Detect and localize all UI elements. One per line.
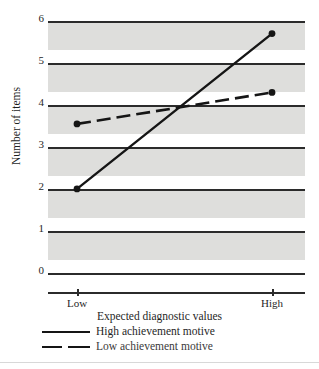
x-axis-line xyxy=(48,292,305,294)
legend-item-low-achievement-motive: Low achievement motive xyxy=(42,339,312,354)
legend-item-high-achievement-motive: High achievement motive xyxy=(42,324,312,339)
series-layer xyxy=(0,0,319,300)
chart-legend: High achievement motive Low achievement … xyxy=(42,324,312,354)
series-line-low-achievement-motive xyxy=(77,92,272,124)
legend-swatch-solid-line-icon xyxy=(42,327,90,337)
xtick-low xyxy=(77,289,79,296)
plot-area: 6 5 4 3 2 1 0 Number of items Low High xyxy=(0,0,319,300)
bottom-divider xyxy=(0,362,319,363)
chart-figure: 6 5 4 3 2 1 0 Number of items Low High E… xyxy=(0,0,319,369)
series-line-high-achievement-motive xyxy=(77,34,272,189)
series-point-low-low xyxy=(74,121,81,128)
xtick-high xyxy=(272,289,274,296)
series-point-low-high xyxy=(269,89,276,96)
x-axis-title: Expected diagnostic values xyxy=(0,310,319,322)
series-point-high-high xyxy=(269,30,276,37)
legend-swatch-dashed-line-icon xyxy=(42,342,90,352)
legend-label-low-achievement-motive: Low achievement motive xyxy=(90,340,213,353)
xtick-label-low: Low xyxy=(67,297,87,309)
legend-label-high-achievement-motive: High achievement motive xyxy=(90,325,215,338)
series-point-high-low xyxy=(74,186,81,193)
xtick-label-high: High xyxy=(261,297,283,309)
